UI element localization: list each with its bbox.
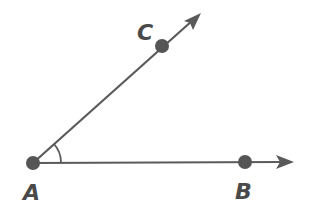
label-c: C xyxy=(137,20,153,45)
point-c xyxy=(155,39,169,53)
angle-arc xyxy=(54,144,61,162)
point-a xyxy=(26,156,40,170)
arrowhead-ac-icon xyxy=(184,13,201,30)
point-b xyxy=(238,155,252,169)
label-b: B xyxy=(235,179,252,204)
ray-ac xyxy=(33,20,193,163)
angle-diagram: A B C xyxy=(0,0,313,222)
label-a: A xyxy=(21,180,40,205)
